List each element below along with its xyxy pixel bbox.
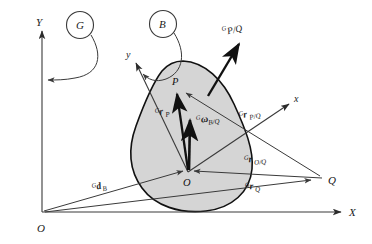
body-origin-label: O xyxy=(183,177,191,188)
vector-label-r-Q-sym: r xyxy=(249,181,254,191)
vector-label-r-P-over-Q-sub: P/Q xyxy=(248,112,261,122)
vector-label-P-over-Q: G P/Q xyxy=(221,21,244,37)
diagram-canvas: Y X O x y G B P O Q G P/Q G r xyxy=(0,0,372,244)
axis-label-local-y: y xyxy=(125,49,131,60)
vector-label-P-over-Q-sub: P/Q xyxy=(225,23,243,36)
vector-label-r-O-over-Q-sub: O/Q xyxy=(254,158,267,167)
vector-label-r-Q: G r Q xyxy=(245,180,261,195)
vector-label-omega-sub: B/Q xyxy=(208,118,220,127)
vector-omega-B-over-Q xyxy=(189,120,190,170)
axis-label-local-x: x xyxy=(293,93,299,104)
vector-label-r-P-over-Q-sym: r xyxy=(242,109,248,120)
callout-leader-G xyxy=(48,35,98,80)
axis-label-Y: Y xyxy=(36,16,44,28)
point-label-Q: Q xyxy=(328,174,336,186)
callout-label-G: G xyxy=(76,19,84,31)
axis-label-X: X xyxy=(348,206,357,218)
point-label-P: P xyxy=(171,76,179,87)
vector-label-r-Q-sub: Q xyxy=(255,185,261,193)
global-origin-label: O xyxy=(37,222,45,234)
callout-label-B: B xyxy=(159,18,166,30)
vector-label-d-B-sub: B xyxy=(102,184,109,193)
